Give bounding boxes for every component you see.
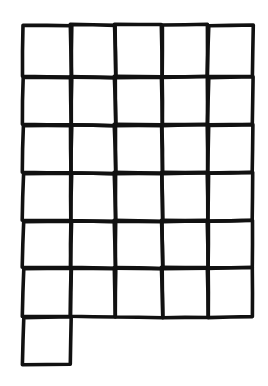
grid-cell [162, 221, 208, 268]
grid-cell [23, 268, 71, 317]
grid-cell [208, 268, 253, 317]
grid-cell [208, 25, 253, 77]
grid-cell [71, 221, 115, 268]
grid-cell [162, 77, 208, 125]
grid-cell [115, 268, 162, 317]
grid-cell [23, 317, 71, 365]
grid-cell [162, 125, 208, 173]
grid-cell [115, 77, 162, 125]
grid-cell [71, 268, 115, 317]
grid-cell [71, 125, 115, 173]
grid-cell [208, 125, 253, 173]
grid-cell [162, 268, 208, 317]
grid-cell [115, 173, 162, 221]
grid-cell [71, 77, 115, 125]
grid-cell [208, 173, 253, 221]
grid-cell [23, 173, 71, 221]
grid-cell [23, 125, 71, 173]
grid-cell [208, 77, 253, 125]
grid-cell [71, 25, 115, 77]
grid-cell [208, 221, 253, 268]
grid-cell [23, 77, 71, 125]
grid-cell [115, 125, 162, 173]
grid-cell [115, 221, 162, 268]
grid-cell [23, 25, 71, 77]
grid-cell [23, 221, 71, 268]
grid-cell [71, 173, 115, 221]
grid-cell [162, 173, 208, 221]
grid-diagram [0, 0, 268, 386]
grid-cell [162, 25, 208, 77]
grid-cell [115, 25, 162, 77]
